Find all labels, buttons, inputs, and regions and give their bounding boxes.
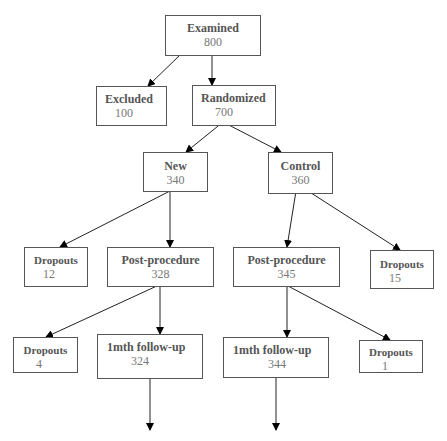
node-label: New (144, 159, 207, 173)
node-randomized: Randomized 700 (192, 85, 276, 126)
node-new-dropouts: Dropouts 12 (24, 247, 88, 287)
node-label: Excluded (105, 92, 166, 106)
node-count: 4 (14, 357, 77, 371)
node-label: Post-procedure (234, 253, 339, 267)
node-count: 340 (144, 173, 207, 187)
edge-post-dropouts-new (46, 285, 159, 337)
node-new-post-procedure: Post-procedure 328 (107, 247, 214, 287)
node-new: New 340 (143, 152, 208, 192)
node-examined: Examined 800 (165, 15, 261, 56)
node-label: Control (269, 159, 332, 173)
edge-new-dropouts (60, 191, 170, 247)
node-count: 700 (201, 105, 275, 119)
edge-post-dropouts-control (288, 286, 390, 340)
node-label: Post-procedure (108, 253, 213, 267)
edge-examined-excluded (148, 55, 180, 86)
edge-randomized-control (223, 122, 281, 152)
node-label: Examined (166, 21, 260, 35)
edge-control-dropouts (308, 191, 400, 250)
node-label: Dropouts (25, 253, 87, 267)
edge-randomized-new (186, 122, 223, 152)
node-count: 324 (107, 354, 202, 368)
node-label: 1mth follow-up (107, 340, 202, 354)
node-control-followup: 1mth follow-up 344 (223, 337, 329, 378)
node-label: 1mth follow-up (233, 343, 328, 357)
node-count: 100 (105, 106, 166, 120)
node-label: Randomized (201, 91, 275, 105)
node-count: 344 (233, 357, 328, 371)
node-label: Dropouts (360, 345, 422, 359)
node-control-post-procedure: Post-procedure 345 (233, 247, 340, 287)
node-new-post-dropouts: Dropouts 4 (13, 337, 78, 373)
node-excluded: Excluded 100 (96, 86, 167, 126)
node-new-followup: 1mth follow-up 324 (97, 334, 203, 379)
node-control-post-dropouts: Dropouts 1 (359, 340, 423, 373)
node-count: 360 (269, 173, 332, 187)
node-count: 328 (108, 267, 213, 281)
node-control: Control 360 (268, 152, 333, 194)
node-control-dropouts: Dropouts 15 (370, 250, 434, 289)
node-count: 12 (25, 267, 87, 281)
node-count: 800 (166, 35, 260, 49)
node-label: Dropouts (371, 257, 433, 271)
edge-control-post (287, 191, 296, 247)
node-count: 15 (371, 271, 433, 285)
node-count: 345 (234, 267, 339, 281)
node-count: 1 (360, 359, 422, 373)
node-label: Dropouts (14, 343, 77, 357)
